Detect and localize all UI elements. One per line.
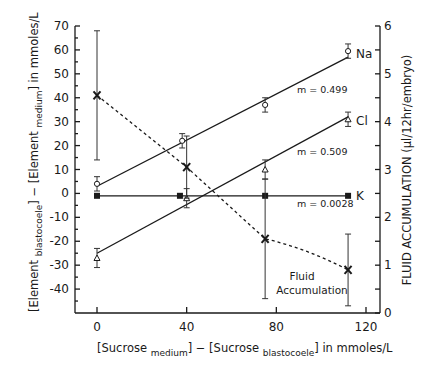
y-tick-label: 0 xyxy=(61,186,69,200)
marker-circle xyxy=(180,138,185,143)
x-tick-label: 40 xyxy=(179,320,194,334)
x-axis-label: [Sucrose medium] − [Sucrose blastocoele]… xyxy=(97,341,393,358)
fit-line xyxy=(97,117,348,253)
series-na xyxy=(94,44,351,191)
svg-text:[Sucrose medium] − [Sucr: [Sucrose medium] − [Sucrose blastocoele]… xyxy=(97,341,393,358)
fit-line xyxy=(97,57,348,186)
y2-tick-label: 4 xyxy=(384,115,392,129)
label-na: Na xyxy=(356,47,372,61)
marker-square xyxy=(177,193,183,199)
y2-tick-label: 6 xyxy=(384,19,392,33)
marker-square xyxy=(94,193,100,199)
y2-tick-label: 3 xyxy=(384,163,392,177)
x-tick-label: 0 xyxy=(93,320,101,334)
y-tick-label: -30 xyxy=(49,258,69,272)
marker-circle xyxy=(94,181,99,186)
series-cl xyxy=(94,112,351,267)
marker-triangle xyxy=(262,167,268,173)
chart: 706050403020100-10-20-30-406543210040801… xyxy=(0,0,429,382)
marker-triangle xyxy=(94,255,100,261)
slope-cl: m = 0.509 xyxy=(297,146,347,157)
y2-tick-label: 0 xyxy=(384,306,392,320)
axes xyxy=(75,26,380,313)
label-cl: Cl xyxy=(356,114,368,128)
y2-tick-label: 5 xyxy=(384,67,392,81)
slope-na: m = 0.499 xyxy=(297,84,347,95)
y-tick-label: -10 xyxy=(49,210,69,224)
y-tick-label: 70 xyxy=(54,19,69,33)
y-tick-label: -40 xyxy=(49,282,69,296)
label-k: K xyxy=(356,189,365,203)
y-tick-label: 40 xyxy=(54,91,69,105)
y-tick-label: -20 xyxy=(49,234,69,248)
marker-circle xyxy=(345,49,350,54)
plot-area xyxy=(94,31,352,306)
fluid-label-2: Accumulation xyxy=(276,284,348,296)
svg-text:[Element blastocoele] −: [Element blastocoele] − [Element medium]… xyxy=(27,12,44,312)
x-tick-label: 80 xyxy=(269,320,284,334)
y-tick-label: 10 xyxy=(54,163,69,177)
y2-axis-label: FLUID ACCUMULATION (µl/12hr/embryo) xyxy=(400,55,414,286)
y-tick-label: 30 xyxy=(54,115,69,129)
y-tick-label: 50 xyxy=(54,67,69,81)
marker-triangle xyxy=(345,116,351,122)
y2-tick-label: 2 xyxy=(384,210,392,224)
y-tick-label: 20 xyxy=(54,139,69,153)
x-tick-label: 120 xyxy=(355,320,378,334)
fluid-label-1: Fluid xyxy=(289,270,314,282)
y-axis-label: [Element blastocoele] − [Element medium]… xyxy=(27,12,44,312)
slope-k: m = 0.0028 xyxy=(297,198,354,209)
y2-tick-label: 1 xyxy=(384,258,392,272)
y-tick-label: 60 xyxy=(54,43,69,57)
marker-circle xyxy=(263,102,268,107)
